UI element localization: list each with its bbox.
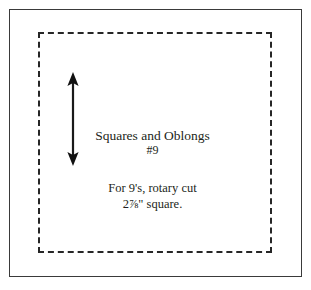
cutting-instruction-line-2: 2⅞" square. (60, 196, 245, 212)
cutting-instruction-group: For 9's, rotary cut 2⅞" square. (60, 180, 245, 212)
cut-shape-word: square. (143, 197, 182, 211)
cut-size-fraction: ⅞ (129, 197, 138, 211)
block-name-label: Squares and Oblongs (60, 128, 245, 143)
diagram-canvas: Squares and Oblongs #9 For 9's, rotary c… (0, 0, 311, 290)
block-number-label: #9 (60, 143, 245, 158)
cutting-instruction-line-1: For 9's, rotary cut (60, 180, 245, 196)
block-text-group: Squares and Oblongs #9 For 9's, rotary c… (60, 128, 245, 212)
